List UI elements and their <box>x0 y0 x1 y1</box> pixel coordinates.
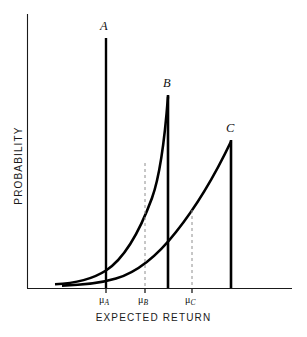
mu-subscript-a: A <box>104 298 109 307</box>
chart-figure: A B C μA μB μC EXPECTED RETURN PROBABILI… <box>0 0 307 337</box>
curve-b-distribution <box>55 97 168 285</box>
curve-label-b: B <box>163 77 171 90</box>
y-axis-title: PROBABILITY <box>13 91 24 241</box>
curve-label-c: C <box>226 122 235 135</box>
x-tick-label-mu-c: μC <box>185 295 195 306</box>
mu-subscript-c: C <box>190 298 195 307</box>
x-tick-label-mu-a: μA <box>99 295 109 306</box>
mu-subscript-b: B <box>143 298 148 307</box>
x-axis-title: EXPECTED RETURN <box>0 312 307 323</box>
curve-label-a: A <box>100 20 108 33</box>
chart-plot-area <box>0 0 307 337</box>
x-tick-label-mu-b: μB <box>138 295 148 306</box>
